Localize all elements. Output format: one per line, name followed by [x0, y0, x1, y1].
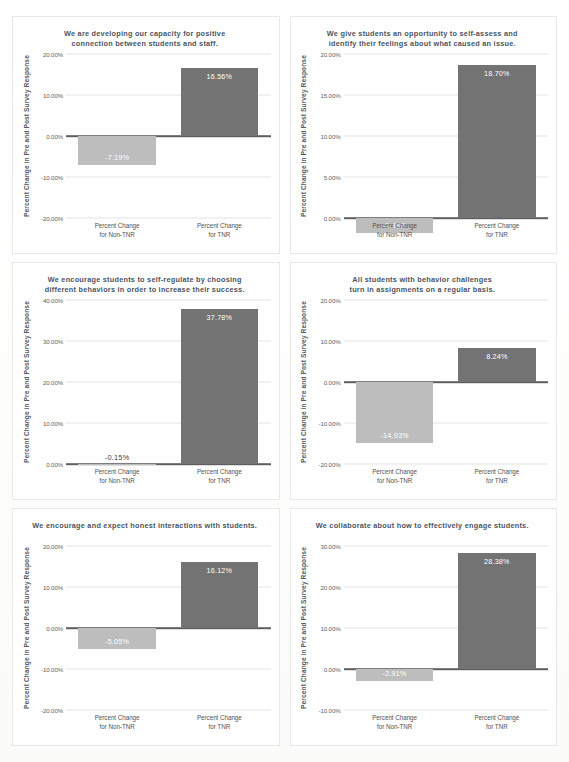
y-tick-label: 0.00% — [324, 215, 341, 222]
x-category-line: for Non-TNR — [344, 230, 446, 239]
chart-plot-area: Percent Change in Pre and Post Survey Re… — [19, 54, 271, 218]
bar-slot[interactable]: -7.19% — [66, 54, 168, 218]
y-tick-label: 30.00% — [320, 543, 340, 550]
chart-title-line: All students with behavior challenges — [307, 275, 539, 285]
bar-group: -0.15%37.78% — [66, 300, 271, 464]
x-axis-labels: Percent Changefor Non-TNRPercent Changef… — [66, 464, 271, 493]
chart-card: We give students an opportunity to self-… — [290, 16, 558, 254]
y-axis-title-label: Percent Change in Pre and Post Survey Re… — [300, 55, 307, 217]
x-category-line: for TNR — [446, 230, 548, 239]
x-category-line: Percent Change — [66, 467, 168, 476]
bar-group: -1.83%18.70% — [344, 54, 549, 218]
y-tick-label: 15.00% — [320, 92, 340, 99]
bar-tnr[interactable] — [458, 553, 536, 669]
y-tick-label: 0.00% — [324, 666, 341, 673]
x-category-line: Percent Change — [66, 713, 168, 722]
chart-plot-area: Percent Change in Pre and Post Survey Re… — [19, 300, 271, 464]
bar-tnr[interactable] — [181, 309, 259, 464]
bar-slot[interactable]: -0.15% — [66, 300, 168, 464]
chart-card: We collaborate about how to effectively … — [290, 508, 558, 746]
y-tick-label: -10.00% — [41, 666, 63, 673]
x-axis-labels: Percent Changefor Non-TNRPercent Changef… — [344, 218, 549, 247]
chart-title-line: identify their feelings about what cause… — [307, 39, 539, 49]
y-tick-label: 20.00% — [43, 379, 63, 386]
x-category-tnr: Percent Changefor TNR — [446, 713, 548, 739]
bar-slot[interactable]: 8.24% — [446, 300, 548, 464]
chart-plot-area: Percent Change in Pre and Post Survey Re… — [19, 546, 271, 710]
bar-slot[interactable]: -5.05% — [66, 546, 168, 710]
plot-canvas: -7.19%16.56% — [66, 54, 271, 218]
x-category-line: Percent Change — [168, 221, 270, 230]
y-axis-tick-labels: 0.00%5.00%10.00%15.00%20.00% — [310, 54, 344, 218]
y-tick-label: -20.00% — [41, 707, 63, 714]
y-axis-title: Percent Change in Pre and Post Survey Re… — [297, 54, 310, 218]
plot-canvas: -2.91%28.38% — [344, 546, 549, 710]
y-axis-title-label: Percent Change in Pre and Post Survey Re… — [22, 547, 29, 709]
x-category-line: for TNR — [446, 722, 548, 731]
chart-plot-area: Percent Change in Pre and Post Survey Re… — [297, 300, 549, 464]
bar-slot[interactable]: 18.70% — [446, 54, 548, 218]
chart-sheet-page: We are developing our capacity for posit… — [0, 0, 569, 762]
bar-slot[interactable]: 28.38% — [446, 546, 548, 710]
y-axis-tick-labels: -20.00%-10.00%0.00%10.00%20.00% — [32, 546, 66, 710]
y-tick-label: 30.00% — [43, 338, 63, 345]
bar-slot[interactable]: -1.83% — [344, 54, 446, 218]
y-axis-title-label: Percent Change in Pre and Post Survey Re… — [300, 301, 307, 463]
chart-title-line: connection between students and staff. — [29, 39, 261, 49]
y-axis-tick-labels: -20.00%-10.00%0.00%10.00%20.00% — [32, 54, 66, 218]
y-axis-title: Percent Change in Pre and Post Survey Re… — [19, 54, 32, 218]
y-axis-title-label: Percent Change in Pre and Post Survey Re… — [22, 55, 29, 217]
y-tick-label: 40.00% — [43, 297, 63, 304]
bar-slot[interactable]: -2.91% — [344, 546, 446, 710]
y-tick-label: 0.00% — [46, 625, 63, 632]
bar-value-label: -5.05% — [66, 637, 168, 646]
chart-plot-area: Percent Change in Pre and Post Survey Re… — [297, 54, 549, 218]
bar-value-label: 18.70% — [446, 69, 548, 78]
y-tick-label: 10.00% — [43, 420, 63, 427]
chart-grid: We are developing our capacity for posit… — [12, 16, 557, 746]
bar-value-label: 16.56% — [168, 72, 270, 81]
bar-slot[interactable]: 16.56% — [168, 54, 270, 218]
bar-slot[interactable]: -14.93% — [344, 300, 446, 464]
chart-title-line: We are developing our capacity for posit… — [29, 29, 261, 39]
y-tick-label: -10.00% — [41, 174, 63, 181]
x-category-non-tnr: Percent Changefor Non-TNR — [66, 713, 168, 739]
y-tick-label: 20.00% — [320, 297, 340, 304]
x-category-non-tnr: Percent Changefor Non-TNR — [344, 467, 446, 493]
y-tick-label: -10.00% — [319, 420, 341, 427]
x-category-line: Percent Change — [344, 467, 446, 476]
y-tick-label: 20.00% — [320, 51, 340, 58]
y-tick-label: 10.00% — [320, 625, 340, 632]
chart-title-line: We encourage and expect honest interacti… — [29, 521, 261, 531]
y-axis-tick-labels: -10.00%0.00%10.00%20.00%30.00% — [310, 546, 344, 710]
y-tick-label: 20.00% — [43, 51, 63, 58]
chart-card: All students with behavior challengestur… — [290, 262, 558, 500]
y-tick-label: 20.00% — [43, 543, 63, 550]
bar-tnr[interactable] — [458, 65, 536, 218]
y-tick-label: -10.00% — [319, 707, 341, 714]
x-category-tnr: Percent Changefor TNR — [446, 221, 548, 247]
y-tick-label: 5.00% — [324, 174, 341, 181]
plot-canvas: -1.83%18.70% — [344, 54, 549, 218]
chart-title-line: We encourage students to self-regulate b… — [29, 275, 261, 285]
y-axis-title: Percent Change in Pre and Post Survey Re… — [297, 300, 310, 464]
x-category-tnr: Percent Changefor TNR — [168, 221, 270, 247]
x-category-line: Percent Change — [168, 713, 270, 722]
y-axis-title: Percent Change in Pre and Post Survey Re… — [19, 300, 32, 464]
bar-slot[interactable]: 16.12% — [168, 546, 270, 710]
x-category-tnr: Percent Changefor TNR — [168, 713, 270, 739]
x-category-non-tnr: Percent Changefor Non-TNR — [344, 221, 446, 247]
bar-group: -7.19%16.56% — [66, 54, 271, 218]
x-category-non-tnr: Percent Changefor Non-TNR — [66, 221, 168, 247]
bar-slot[interactable]: 37.78% — [168, 300, 270, 464]
bar-group: -5.05%16.12% — [66, 546, 271, 710]
x-category-non-tnr: Percent Changefor Non-TNR — [66, 467, 168, 493]
bar-value-label: 8.24% — [446, 352, 548, 361]
x-category-line: for Non-TNR — [66, 230, 168, 239]
x-category-line: for TNR — [446, 476, 548, 485]
x-category-line: Percent Change — [446, 713, 548, 722]
x-category-line: for Non-TNR — [66, 476, 168, 485]
chart-title-line: We give students an opportunity to self-… — [307, 29, 539, 39]
plot-canvas: -5.05%16.12% — [66, 546, 271, 710]
x-category-line: for Non-TNR — [344, 722, 446, 731]
